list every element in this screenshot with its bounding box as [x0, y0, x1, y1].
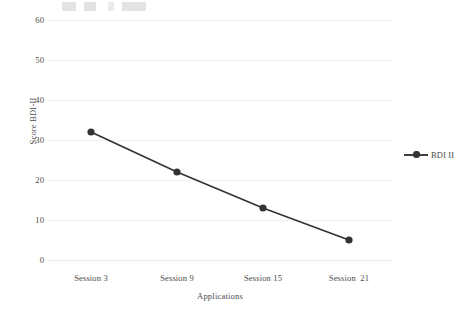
gridline — [48, 180, 392, 181]
chart-legend: BDI II — [404, 150, 454, 160]
gridline — [48, 20, 392, 21]
y-axis-tick-label: 50 — [18, 56, 44, 65]
x-axis-tick-label: Session 21 — [306, 273, 392, 283]
gridline — [48, 260, 392, 261]
y-axis-tick-label: 0 — [18, 256, 44, 265]
gridline — [48, 100, 392, 101]
legend-label: BDI II — [431, 150, 454, 160]
gridline — [48, 140, 392, 141]
y-axis-tick-label: 40 — [18, 96, 44, 105]
x-axis-tick-label: Session 3 — [48, 273, 134, 283]
y-axis-tick-label: 20 — [18, 176, 44, 185]
chart-figure: Score BDI-II 0102030405060 Session 3Sess… — [0, 0, 467, 311]
legend-symbol-line-marker-icon — [404, 150, 428, 160]
y-axis-tick-label: 30 — [18, 136, 44, 145]
gridline — [48, 60, 392, 61]
plot-area — [48, 20, 392, 260]
x-axis-title: Applications — [0, 291, 440, 301]
y-axis-tick-label: 10 — [18, 216, 44, 225]
x-axis-tick-label: Session 15 — [220, 273, 306, 283]
y-axis-title: Score BDI-II — [28, 76, 38, 166]
gridline — [48, 220, 392, 221]
x-axis-tick-label: Session 9 — [134, 273, 220, 283]
scan-artifact — [62, 2, 182, 11]
y-axis-tick-label: 60 — [18, 16, 44, 25]
